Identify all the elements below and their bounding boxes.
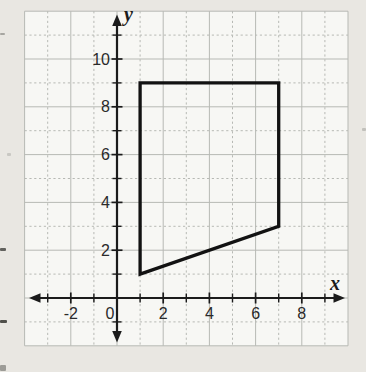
scan-artifact — [0, 248, 6, 251]
scan-artifact — [0, 365, 6, 371]
x-tick-label: 6 — [251, 305, 260, 322]
scan-artifact — [0, 320, 7, 323]
scan-artifact — [7, 153, 11, 156]
coordinate-plane-svg: -202468246810xy — [0, 0, 366, 372]
x-tick-label: 4 — [205, 305, 214, 322]
scan-artifact — [0, 33, 5, 35]
x-tick-label: 2 — [159, 305, 168, 322]
x-tick-label: -2 — [64, 305, 78, 322]
y-tick-label: 10 — [92, 51, 110, 68]
x-axis-label: x — [329, 272, 340, 294]
y-tick-label: 8 — [101, 98, 110, 115]
x-tick-label: 0 — [106, 305, 115, 322]
scan-artifact — [362, 128, 366, 131]
y-tick-label: 4 — [101, 194, 110, 211]
y-tick-label: 2 — [101, 242, 110, 259]
graph-figure: -202468246810xy — [0, 0, 366, 372]
x-tick-label: 8 — [297, 305, 306, 322]
y-tick-label: 6 — [101, 146, 110, 163]
y-axis-label: y — [122, 3, 133, 26]
